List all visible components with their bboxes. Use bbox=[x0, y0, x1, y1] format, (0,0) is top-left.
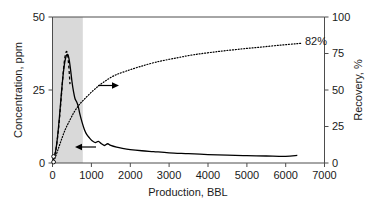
y2-axis-title: Recovery, % bbox=[352, 59, 364, 121]
chart-figure: 0 25 50 0 25 50 75 100 0 1000 2000 bbox=[0, 0, 382, 207]
right-tick-label-25: 25 bbox=[332, 120, 344, 132]
left-tick-label-0: 0 bbox=[39, 157, 45, 169]
chart-canvas: 0 25 50 0 25 50 75 100 0 1000 2000 bbox=[0, 0, 382, 207]
x-tick-label-0: 0 bbox=[49, 169, 55, 181]
left-tick-label-50: 50 bbox=[33, 11, 45, 23]
right-tick-label-0: 0 bbox=[332, 157, 338, 169]
origin-marker-upper bbox=[52, 155, 56, 159]
origin-marker-lower bbox=[52, 160, 56, 164]
y-axis-title: Concentration, ppm bbox=[12, 42, 24, 138]
x-tick-label-5000: 5000 bbox=[235, 169, 259, 181]
left-tick-label-25: 25 bbox=[33, 84, 45, 96]
recovery-value-label: 82% bbox=[305, 35, 327, 47]
right-tick-label-100: 100 bbox=[332, 11, 350, 23]
x-tick-label-2000: 2000 bbox=[118, 169, 142, 181]
x-tick-label-6000: 6000 bbox=[273, 169, 297, 181]
x-tick-label-3000: 3000 bbox=[157, 169, 181, 181]
x-tick-label-4000: 4000 bbox=[196, 169, 220, 181]
x-axis-title: Production, BBL bbox=[148, 186, 228, 198]
x-tick-label-7000: 7000 bbox=[312, 169, 336, 181]
concentration-solid-curve bbox=[54, 54, 298, 158]
right-tick-label-50: 50 bbox=[332, 84, 344, 96]
x-tick-label-1000: 1000 bbox=[79, 169, 103, 181]
x-axis-ticks bbox=[53, 163, 325, 167]
left-axis-ticks bbox=[49, 17, 53, 163]
right-tick-label-75: 75 bbox=[332, 47, 344, 59]
